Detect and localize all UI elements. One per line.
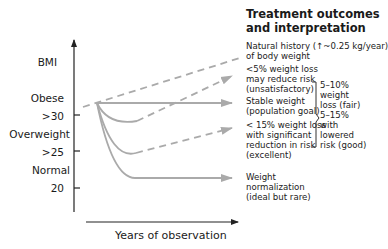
normalization-curve bbox=[97, 103, 232, 178]
outcome-lt5-loss: <5% weight loss may reduce risk (unsatis… bbox=[246, 64, 318, 94]
y-axis-label: BMI bbox=[38, 56, 57, 68]
threshold-20: 20 bbox=[51, 182, 64, 194]
outcome-natural-history: Natural history (↑~0.25 kg/year) of body… bbox=[246, 41, 388, 61]
threshold-30: >30 bbox=[42, 110, 64, 122]
category-obese: Obese bbox=[31, 92, 64, 104]
x-axis-label: Years of observation bbox=[115, 229, 227, 242]
bracket-note: 5–10% weight loss (fair) 5–15% with lowe… bbox=[320, 80, 366, 150]
outcome-stable-weight: Stable weight (population goal) bbox=[246, 96, 320, 116]
category-normal: Normal bbox=[32, 164, 70, 176]
category-overweight: Overweight bbox=[9, 128, 70, 140]
lt5-loss-curve bbox=[97, 103, 137, 122]
lt15-loss-dashed bbox=[136, 128, 232, 153]
threshold-25: >25 bbox=[42, 146, 64, 158]
outcome-lt15-loss: < 15% weight loss with significant reduc… bbox=[246, 120, 326, 160]
legend-title: Treatment outcomes and interpretation bbox=[246, 7, 380, 35]
outcome-normalization: Weight normalization (ideal but rare) bbox=[246, 172, 311, 202]
y-axis bbox=[74, 40, 80, 212]
lt5-loss-dashed bbox=[137, 76, 232, 121]
